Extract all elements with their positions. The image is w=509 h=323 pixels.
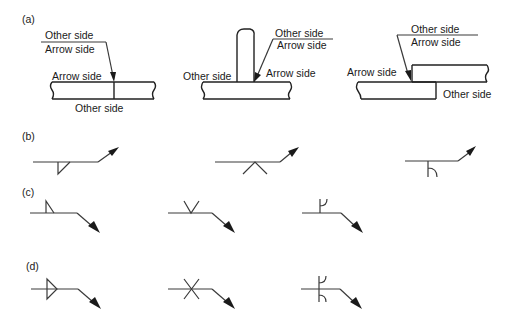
v-groove-both-sides-symbol	[168, 279, 235, 309]
arrowhead-icon	[89, 297, 101, 309]
arrowhead-icon	[223, 221, 235, 233]
arrowhead-icon	[350, 297, 362, 309]
arrowhead-icon	[254, 72, 261, 82]
j-groove-weld-icon	[428, 161, 437, 177]
arrowhead-icon	[405, 70, 411, 81]
j-groove-weld-icon	[320, 199, 327, 213]
panel-label-a: (a)	[22, 13, 35, 25]
j-groove-both-sides-symbol	[301, 276, 362, 309]
ref-label-other-side: Other side	[275, 27, 324, 39]
v-groove-weld-icon	[184, 201, 199, 213]
panel-label-d: (d)	[26, 260, 39, 272]
weld-symbols-figure: (a) Other side Arrow side Arrow side Oth…	[0, 0, 509, 323]
tee-web	[237, 29, 254, 82]
ref-label-arrow-side: Arrow side	[277, 39, 327, 51]
arrow-side-label: Arrow side	[52, 70, 102, 82]
arrowhead-icon	[88, 221, 100, 233]
v-groove-arrow-side-symbol	[215, 147, 299, 174]
arrowhead-icon	[351, 221, 363, 233]
panel-label-c: (c)	[22, 186, 34, 198]
fillet-both-sides-symbol	[31, 279, 101, 309]
other-side-label: Other side	[75, 102, 124, 114]
ref-label-other-side: Other side	[411, 23, 460, 35]
arrowhead-icon	[223, 297, 235, 309]
lap-joint-diagram: Other side Arrow side Arrow side Other s…	[347, 23, 492, 100]
arrowhead-icon	[288, 147, 299, 157]
ref-label-other-side: Other side	[45, 29, 94, 41]
v-groove-weld-icon	[243, 162, 267, 174]
panel-label-b: (b)	[22, 130, 35, 142]
fillet-weld-icon	[58, 162, 70, 174]
other-side-label: Other side	[443, 88, 492, 100]
arrow-side-label: Arrow side	[347, 66, 397, 78]
arrow-leader	[397, 35, 408, 74]
arrowhead-icon	[110, 72, 116, 82]
fillet-arrow-side-symbol	[33, 147, 119, 174]
lap-bottom-plate	[357, 82, 437, 99]
lap-top-plate	[412, 65, 489, 82]
j-groove-arrow-side-symbol	[405, 146, 476, 177]
tee-flange	[202, 82, 292, 99]
butt-plates	[51, 82, 156, 99]
fillet-weld-icon	[46, 201, 54, 213]
arrowhead-icon	[108, 147, 119, 156]
arrow-side-label: Arrow side	[266, 67, 316, 79]
butt-joint-diagram: Other side Arrow side Arrow side Other s…	[41, 29, 156, 114]
other-side-label: Other side	[183, 70, 232, 82]
ref-label-arrow-side: Arrow side	[45, 43, 95, 55]
j-groove-other-side-symbol	[302, 199, 363, 233]
arrow-leader	[106, 42, 113, 76]
v-groove-other-side-symbol	[168, 201, 235, 233]
ref-label-arrow-side: Arrow side	[411, 36, 461, 48]
tee-joint-diagram: Other side Arrow side Arrow side Other s…	[183, 27, 333, 99]
fillet-other-side-symbol	[30, 201, 100, 233]
